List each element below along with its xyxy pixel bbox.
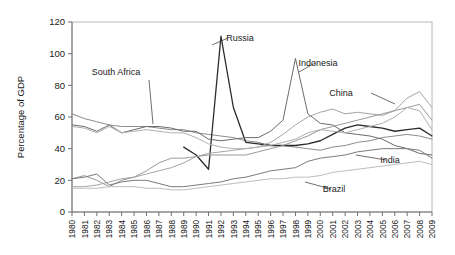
x-tick-label: 2002 <box>341 220 350 239</box>
x-tick-label: 1991 <box>205 220 214 239</box>
y-axis-title: Percentage of GDP <box>15 76 26 158</box>
annotation-leader-china <box>371 93 395 104</box>
x-tick-label: 1990 <box>192 220 201 239</box>
x-tick-label: 1995 <box>254 220 263 239</box>
x-tick-label: 1996 <box>267 220 276 239</box>
x-tick-label: 1993 <box>230 220 239 239</box>
line-chart: 020406080100120Percentage of GDP19801981… <box>0 0 455 255</box>
series-label-brazil: Brazil <box>323 184 346 194</box>
x-tick-label: 1980 <box>68 220 77 239</box>
x-tick-label: 2007 <box>403 220 412 239</box>
x-tick-label: 1999 <box>304 220 313 239</box>
series-label-china: China <box>329 88 353 98</box>
x-tick-label: 1992 <box>217 220 226 239</box>
y-tick-label: 20 <box>54 175 65 186</box>
x-tick-label: 1988 <box>168 220 177 239</box>
x-tick-label: 2006 <box>391 220 400 239</box>
x-tick-label: 2004 <box>366 220 375 239</box>
y-tick-label: 0 <box>60 206 65 217</box>
series-line-russia <box>184 36 432 169</box>
y-tick-label: 40 <box>54 143 65 154</box>
y-tick-label: 80 <box>54 80 65 91</box>
x-tick-label: 1983 <box>105 220 114 239</box>
x-tick-label: 1982 <box>93 220 102 239</box>
x-tick-label: 2005 <box>379 220 388 239</box>
x-tick-label: 1997 <box>279 220 288 239</box>
x-tick-label: 1998 <box>292 220 301 239</box>
x-tick-label: 2000 <box>316 220 325 239</box>
y-tick-label: 100 <box>49 48 65 59</box>
series-label-russia: Russia <box>226 33 254 43</box>
series-label-indonesia: Indonesia <box>298 58 337 68</box>
x-tick-label: 1994 <box>242 220 251 239</box>
x-tick-label: 1987 <box>155 220 164 239</box>
y-tick-label: 120 <box>49 16 65 27</box>
x-tick-label: 2009 <box>428 220 437 239</box>
annotation-leader-south-africa <box>149 80 153 124</box>
x-tick-label: 1989 <box>180 220 189 239</box>
x-tick-label: 1986 <box>143 220 152 239</box>
series-label-india: India <box>380 155 400 165</box>
plot-frame <box>72 22 432 212</box>
x-tick-label: 2001 <box>329 220 338 239</box>
x-tick-label: 1981 <box>81 220 90 239</box>
chart-container: 020406080100120Percentage of GDP19801981… <box>0 0 455 255</box>
series-line-india <box>72 104 432 186</box>
x-tick-label: 2008 <box>416 220 425 239</box>
x-tick-label: 2003 <box>354 220 363 239</box>
y-tick-label: 60 <box>54 111 65 122</box>
series-label-south-africa: South Africa <box>92 67 141 77</box>
x-tick-label: 1985 <box>130 220 139 239</box>
x-tick-label: 1984 <box>118 220 127 239</box>
